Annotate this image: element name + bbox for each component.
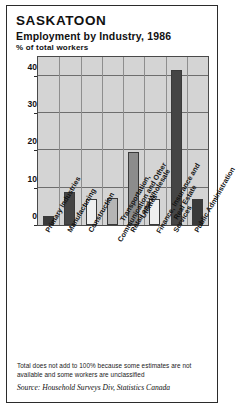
y-axis-tick-mark [34, 150, 37, 151]
y-axis-tick-label: 40 [11, 62, 37, 72]
y-axis-tick-mark [34, 76, 37, 77]
plot-area-wrapper: 010203040 Primary IndustriesManufacturin… [7, 6, 219, 404]
y-axis-tick-mark [34, 188, 37, 189]
y-axis-tick-mark [34, 113, 37, 114]
y-axis-tick-mark [34, 225, 37, 226]
y-axis: 010203040 [7, 56, 37, 226]
x-axis-labels: Primary IndustriesManufacturingConstruct… [7, 228, 219, 348]
y-axis-tick-label: 10 [11, 174, 37, 184]
chart-figure: SASKATOON Employment by Industry, 1986 %… [6, 5, 218, 403]
y-axis-tick-label: 20 [11, 136, 37, 146]
footnote-block: Total does not add to 100% because some … [17, 362, 209, 392]
source-text: Source: Household Surveys Div, Statistic… [17, 383, 209, 392]
y-axis-tick-label: 0 [11, 211, 37, 221]
y-axis-tick-label: 30 [11, 99, 37, 109]
footnote-text: Total does not add to 100% because some … [17, 362, 209, 379]
